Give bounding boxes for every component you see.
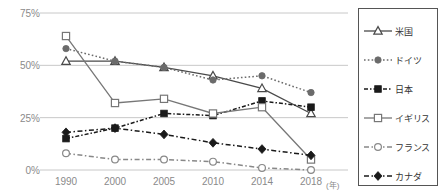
x-tick-label-1990: 1990 <box>55 176 77 187</box>
data-point-filled-circle <box>308 89 314 95</box>
data-point-filled-circle <box>63 45 69 51</box>
y-tick-label-0: 0% <box>26 165 40 176</box>
data-point-filled-diamond <box>258 145 266 154</box>
data-point-open-square <box>160 95 167 102</box>
x-tick-label-2010: 2010 <box>202 176 224 187</box>
legend-label-france: フランス <box>395 141 430 154</box>
legend-label-germany: ドイツ <box>395 54 421 67</box>
legend-item-canada[interactable]: カナダ <box>363 166 437 186</box>
legend-marker-filled-square <box>363 82 393 96</box>
legend-item-uk[interactable]: イギリス <box>363 108 437 128</box>
data-point-filled-square <box>161 110 168 117</box>
legend-item-germany[interactable]: ドイツ <box>363 50 437 70</box>
series-ドイツ <box>63 45 314 95</box>
data-point-open-circle <box>161 156 168 163</box>
x-tick-label-2005: 2005 <box>153 176 175 187</box>
data-point-filled-circle <box>259 73 265 79</box>
x-tick-label-2014: 2014 <box>251 176 273 187</box>
data-point-open-circle <box>259 165 266 172</box>
y-tick-label-75: 75% <box>20 8 40 19</box>
data-point-filled-diamond <box>209 138 217 147</box>
chart-canvas <box>0 0 352 195</box>
data-point-open-square <box>258 104 265 111</box>
chart-root: 75% 50% 25% 0% 1990 2000 2005 2010 2014 … <box>0 0 445 195</box>
legend: 米国 ドイツ 日本 イギリス フランス カナダ <box>358 8 438 186</box>
legend-item-france[interactable]: フランス <box>363 137 437 157</box>
data-point-filled-square <box>308 104 315 111</box>
data-point-filled-circle <box>210 77 216 83</box>
legend-label-us: 米国 <box>395 25 413 38</box>
legend-item-us[interactable]: 米国 <box>363 21 437 41</box>
x-tick-label-2000: 2000 <box>104 176 126 187</box>
data-point-open-circle <box>63 150 70 157</box>
series-日本 <box>63 98 315 142</box>
legend-marker-open-circle <box>363 140 393 154</box>
data-point-filled-circle <box>161 64 167 70</box>
legend-item-japan[interactable]: 日本 <box>363 79 437 99</box>
legend-marker-filled-circle <box>363 53 393 67</box>
y-axis-labels: 75% 50% 25% 0% <box>0 0 40 195</box>
data-point-open-circle <box>112 156 119 163</box>
legend-label-canada: カナダ <box>395 170 421 183</box>
data-point-open-square <box>374 114 381 121</box>
legend-label-japan: 日本 <box>395 83 413 96</box>
data-point-filled-diamond <box>374 172 382 181</box>
y-tick-label-25: 25% <box>20 113 40 124</box>
series-line <box>66 153 311 170</box>
series-line <box>66 128 311 155</box>
data-point-open-circle <box>375 144 382 151</box>
legend-label-uk: イギリス <box>395 112 430 125</box>
y-tick-label-50: 50% <box>20 60 40 71</box>
legend-marker-open-square <box>363 111 393 125</box>
x-tick-label-2018: 2018 <box>300 176 322 187</box>
series-イギリス <box>62 32 314 163</box>
data-point-filled-circle <box>112 58 118 64</box>
data-point-open-square <box>62 32 69 39</box>
data-point-filled-circle <box>375 57 381 63</box>
legend-marker-filled-diamond <box>363 169 393 183</box>
data-point-filled-diamond <box>160 130 168 139</box>
legend-marker-open-triangle <box>363 24 393 38</box>
series-カナダ <box>62 124 315 160</box>
data-point-open-square <box>111 99 118 106</box>
x-axis-unit-label: (年) <box>326 179 339 190</box>
data-point-open-circle <box>210 158 217 165</box>
plot-area <box>0 0 352 195</box>
data-point-filled-square <box>375 86 382 93</box>
series-line <box>66 36 311 160</box>
data-point-open-square <box>209 110 216 117</box>
data-point-open-circle <box>308 167 315 174</box>
